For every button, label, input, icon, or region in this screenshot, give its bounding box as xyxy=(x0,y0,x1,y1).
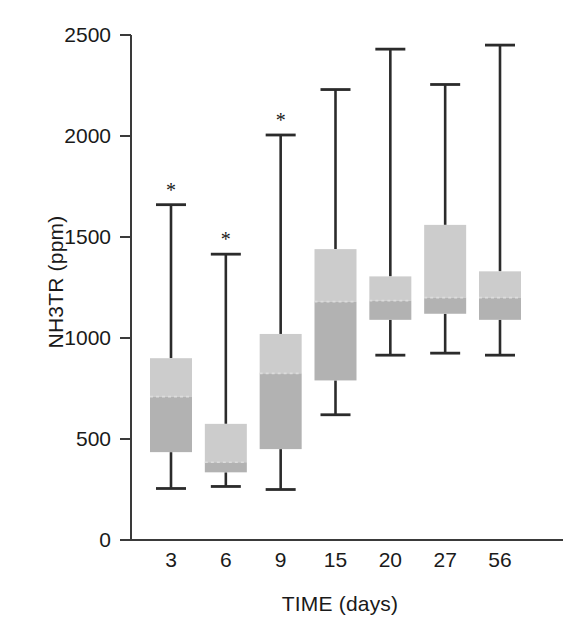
x-tick-label: 27 xyxy=(433,548,456,571)
boxplot-box xyxy=(424,84,466,353)
box-lower-quartile xyxy=(369,301,411,320)
boxplot-figure: NH3TR (ppm) TIME (days) 0500100015002000… xyxy=(0,0,574,626)
x-tick-label: 6 xyxy=(220,548,232,571)
box-series: *** xyxy=(150,45,521,489)
x-tick-label: 15 xyxy=(324,548,347,571)
box-upper-quartile xyxy=(479,271,521,297)
plot-area: 05001000150020002500 36915202756 *** xyxy=(0,0,574,626)
boxplot-box: * xyxy=(260,109,302,490)
box-lower-quartile xyxy=(205,462,247,472)
box-upper-quartile xyxy=(424,225,466,298)
box-lower-quartile xyxy=(260,373,302,449)
box-lower-quartile xyxy=(479,298,521,320)
x-tick-label: 20 xyxy=(379,548,402,571)
x-tick-label: 3 xyxy=(165,548,177,571)
x-axis: 36915202756 xyxy=(131,540,563,571)
boxplot-box xyxy=(479,45,521,355)
boxplot-box xyxy=(369,49,411,355)
boxplot-box xyxy=(315,90,357,415)
significance-asterisk: * xyxy=(221,228,231,250)
boxplot-box: * xyxy=(150,179,192,489)
boxplot-box: * xyxy=(205,228,247,486)
y-tick-label: 2000 xyxy=(64,124,111,147)
box-upper-quartile xyxy=(150,358,192,396)
box-lower-quartile xyxy=(150,397,192,453)
significance-asterisk: * xyxy=(276,109,286,131)
box-upper-quartile xyxy=(205,424,247,462)
box-lower-quartile xyxy=(424,298,466,314)
y-tick-label: 0 xyxy=(99,528,111,551)
y-axis: 05001000150020002500 xyxy=(64,23,131,551)
y-tick-label: 1500 xyxy=(64,225,111,248)
y-tick-label: 500 xyxy=(76,427,111,450)
box-upper-quartile xyxy=(369,276,411,300)
x-tick-label: 9 xyxy=(275,548,287,571)
box-lower-quartile xyxy=(315,302,357,381)
x-tick-label: 56 xyxy=(488,548,511,571)
box-upper-quartile xyxy=(315,249,357,302)
significance-asterisk: * xyxy=(166,179,176,201)
y-tick-label: 2500 xyxy=(64,23,111,46)
box-upper-quartile xyxy=(260,334,302,373)
y-tick-label: 1000 xyxy=(64,326,111,349)
